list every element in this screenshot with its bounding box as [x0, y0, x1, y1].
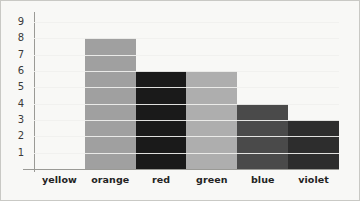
bar-green[interactable] [186, 71, 237, 169]
x-axis-line [23, 169, 339, 170]
y-tick-label-9: 9 [2, 17, 24, 27]
bar-slot-orange[interactable] [85, 14, 136, 169]
y-tick-label-3: 3 [2, 115, 24, 125]
y-tick-label-6: 6 [2, 66, 24, 76]
bars-layer [34, 14, 339, 169]
bar-violet[interactable] [288, 120, 339, 169]
bar-slot-violet[interactable] [288, 14, 339, 169]
x-tick-label-blue: blue [237, 171, 288, 189]
x-tick-label-orange: orange [85, 171, 136, 189]
bar-slot-yellow[interactable] [34, 14, 85, 169]
y-tick-label-5: 5 [2, 82, 24, 92]
bar-orange[interactable] [85, 38, 136, 169]
bar-slot-green[interactable] [186, 14, 237, 169]
y-axis-tick-labels: 123456789 [1, 1, 31, 201]
bar-red[interactable] [136, 71, 187, 169]
bar-chart-figure: 123456789 yelloworangeredgreenblueviolet [0, 0, 360, 201]
x-axis-tick-labels: yelloworangeredgreenblueviolet [34, 171, 339, 189]
x-tick-label-yellow: yellow [34, 171, 85, 189]
bar-slot-blue[interactable] [237, 14, 288, 169]
y-tick-label-7: 7 [2, 50, 24, 60]
y-tick-label-4: 4 [2, 99, 24, 109]
y-tick-label-8: 8 [2, 33, 24, 43]
bar-blue[interactable] [237, 104, 288, 169]
x-tick-label-green: green [186, 171, 237, 189]
y-tick-label-1: 1 [2, 148, 24, 158]
y-tick-label-2: 2 [2, 131, 24, 141]
plot-area [34, 14, 339, 169]
x-tick-label-violet: violet [288, 171, 339, 189]
x-tick-label-red: red [136, 171, 187, 189]
bar-slot-red[interactable] [136, 14, 187, 169]
